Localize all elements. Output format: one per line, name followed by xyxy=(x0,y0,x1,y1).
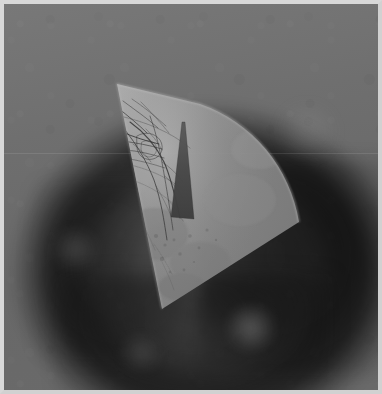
scanline-seam xyxy=(4,153,378,154)
image-frame-border xyxy=(0,0,382,394)
scan-canvas xyxy=(4,4,378,390)
tissue-speckle-texture xyxy=(4,4,378,390)
medical-scan-viewer xyxy=(0,0,382,394)
